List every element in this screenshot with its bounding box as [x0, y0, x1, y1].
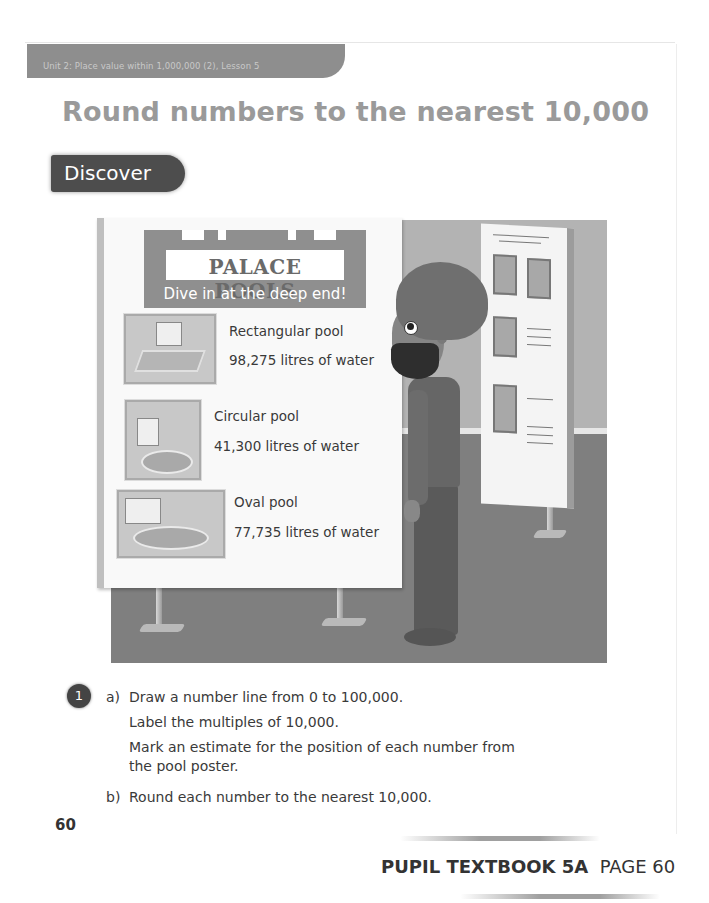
character-legs: [414, 485, 458, 635]
discover-label: Discover: [64, 161, 151, 185]
poster-text-line: [527, 442, 553, 444]
poster-tagline: Dive in at the deep end!: [144, 285, 366, 303]
poster-foot: [533, 530, 568, 538]
palace-pools-poster: PALACE POOLS Dive in at the deep end! Re…: [97, 218, 402, 588]
page-title: Round numbers to the nearest 10,000: [62, 96, 649, 127]
poster-picture: [493, 316, 517, 357]
footer-line-bottom: [460, 894, 660, 899]
oval-pool-image: [117, 490, 225, 558]
discover-badge: Discover: [51, 155, 185, 192]
poster-text-line: [527, 434, 553, 436]
question-number-badge: 1: [67, 684, 91, 708]
house-icon: [156, 322, 182, 346]
character-hand: [404, 500, 420, 522]
poster-text-line: [527, 426, 553, 428]
footer-label: PUPIL TEXTBOOK 5A PAGE 60: [381, 856, 675, 877]
question-part-b-line: Round each number to the nearest 10,000.: [129, 789, 432, 805]
oval-pool-name: Oval pool: [234, 494, 298, 510]
poster-text-line: [493, 234, 549, 238]
character-pupil: [407, 323, 414, 330]
crenel: [182, 230, 204, 240]
crenel: [288, 230, 296, 240]
poster-name-box: PALACE POOLS: [166, 250, 344, 280]
house-icon: [137, 418, 159, 446]
crenel: [218, 230, 226, 240]
character-shoe: [404, 628, 456, 646]
question-part-a-line: the pool poster.: [129, 758, 239, 774]
house-icon: [125, 498, 161, 524]
rectangular-pool-image: [124, 314, 216, 384]
footer-book-label: PUPIL TEXTBOOK 5A: [381, 856, 588, 877]
crenel: [314, 230, 336, 240]
poster-text-line: [527, 336, 551, 338]
background-poster: [481, 224, 574, 509]
page-number: 60: [55, 816, 76, 834]
circular-pool-image: [125, 400, 201, 480]
unit-banner: Unit 2: Place value within 1,000,000 (2)…: [27, 44, 345, 78]
question-part-a-line: Draw a number line from 0 to 100,000.: [129, 689, 403, 705]
poster-picture: [527, 258, 551, 299]
oval-pool-icon: [133, 526, 209, 550]
page-top-edge: [25, 42, 675, 43]
question-part-a-label: a): [106, 689, 120, 705]
circular-pool-icon: [141, 450, 193, 474]
poster-text-line: [527, 344, 551, 346]
poster-foot: [139, 624, 186, 632]
oval-pool-volume: 77,735 litres of water: [234, 524, 379, 540]
rectangular-pool-icon: [134, 350, 206, 372]
circular-pool-volume: 41,300 litres of water: [214, 438, 359, 454]
character-arm: [408, 390, 428, 505]
poster-picture: [493, 254, 517, 295]
character-beard: [391, 343, 439, 379]
poster-text-line: [527, 398, 553, 400]
rectangular-pool-volume: 98,275 litres of water: [229, 352, 374, 368]
footer-line-top: [400, 836, 600, 841]
question-part-a-line: Mark an estimate for the position of eac…: [129, 739, 515, 755]
poster-picture: [493, 384, 517, 433]
poster-text-line: [527, 328, 551, 330]
footer-page-label: PAGE 60: [600, 856, 676, 877]
poster-foot: [321, 618, 368, 626]
rectangular-pool-name: Rectangular pool: [229, 323, 343, 339]
question-part-b-label: b): [106, 789, 120, 805]
poster-header: PALACE POOLS Dive in at the deep end!: [144, 230, 366, 308]
poster-text-line: [499, 241, 541, 244]
unit-label: Unit 2: Place value within 1,000,000 (2)…: [43, 61, 259, 71]
question-part-a-line: Label the multiples of 10,000.: [129, 714, 339, 730]
circular-pool-name: Circular pool: [214, 408, 299, 424]
page-right-edge: [676, 44, 677, 834]
